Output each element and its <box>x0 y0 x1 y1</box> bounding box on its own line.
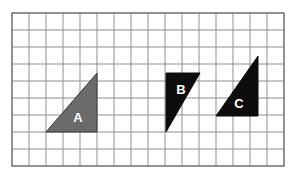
geometry-canvas: ABC <box>0 0 298 173</box>
triangle-c-label: C <box>234 96 244 111</box>
triangle-b-label: B <box>176 82 185 97</box>
geometry-figure: ABC <box>0 0 298 173</box>
triangle-a-label: A <box>73 110 83 125</box>
